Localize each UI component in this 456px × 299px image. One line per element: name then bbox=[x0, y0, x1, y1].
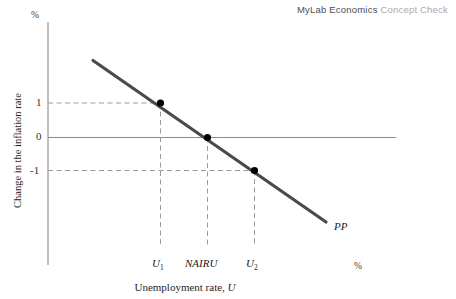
x-tick-label-u1: U1 bbox=[152, 257, 164, 272]
y-axis-title: Change in the inflation rate bbox=[12, 76, 23, 226]
chart-canvas bbox=[0, 0, 456, 299]
y-axis-unit-label: % bbox=[31, 10, 39, 20]
data-point-u2 bbox=[251, 167, 258, 174]
x-tick-label-nairu: NAIRU bbox=[185, 257, 217, 269]
data-point-u1 bbox=[157, 99, 164, 106]
chart-screenshot: MyLab Economics Concept Check bbox=[0, 0, 456, 299]
pp-curve bbox=[93, 61, 326, 223]
pp-curve-label: PP bbox=[334, 220, 347, 232]
x-axis-title: Unemployment rate, U bbox=[0, 281, 370, 293]
x-axis-unit-label: % bbox=[354, 261, 362, 271]
y-tick-label-0: 0 bbox=[36, 130, 42, 142]
y-tick-label-neg1: -1 bbox=[30, 164, 39, 176]
x-tick-label-u2: U2 bbox=[246, 257, 258, 272]
y-tick-label-1: 1 bbox=[36, 96, 42, 108]
data-point-nairu bbox=[204, 134, 211, 141]
phillips-curve-plot: % 1 0 -1 U1 NAIRU U2 % PP Change in the … bbox=[0, 0, 456, 299]
